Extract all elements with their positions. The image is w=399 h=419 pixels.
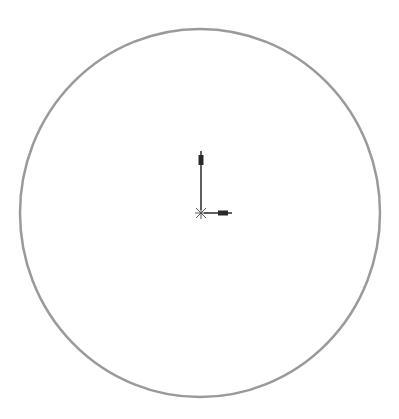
- origin-cross-icon: [195, 207, 207, 219]
- x-axis-arrowhead: [218, 211, 228, 216]
- canvas-background: [0, 0, 399, 419]
- y-axis-arrowhead: [199, 155, 204, 165]
- sketch-canvas[interactable]: [0, 0, 399, 419]
